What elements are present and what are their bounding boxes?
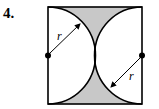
radius-arrow-left (49, 24, 80, 54)
radius-arrow-right (111, 57, 141, 87)
radius-label-bottom: r (129, 69, 134, 83)
geometry-figure: r r (0, 0, 159, 109)
radius-label-top: r (57, 29, 62, 43)
